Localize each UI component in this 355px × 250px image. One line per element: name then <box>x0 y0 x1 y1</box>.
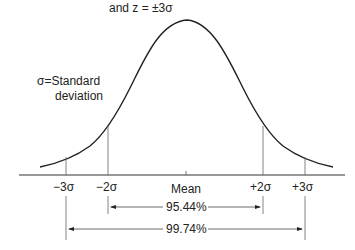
diagram-title: and z = ±3σ <box>109 1 173 15</box>
tick-label-plus3: +3σ <box>292 180 313 194</box>
tick-label-minus2: −2σ <box>96 180 117 194</box>
range-label-two-sigma: 95.44% <box>166 200 207 214</box>
arrow-left-icon <box>68 227 74 231</box>
range-label-three-sigma: 99.74% <box>166 222 207 236</box>
arrow-right-icon <box>255 205 261 209</box>
tick-label-minus3: −3σ <box>53 180 74 194</box>
tick-label-plus2: +2σ <box>250 180 271 194</box>
sigma-annotation-line1: σ=Standard <box>37 74 100 88</box>
arrow-right-icon <box>297 227 303 231</box>
tick-label-mean: Mean <box>171 182 201 196</box>
sigma-annotation-line2: deviation <box>55 89 103 103</box>
arrow-left-icon <box>110 205 116 209</box>
